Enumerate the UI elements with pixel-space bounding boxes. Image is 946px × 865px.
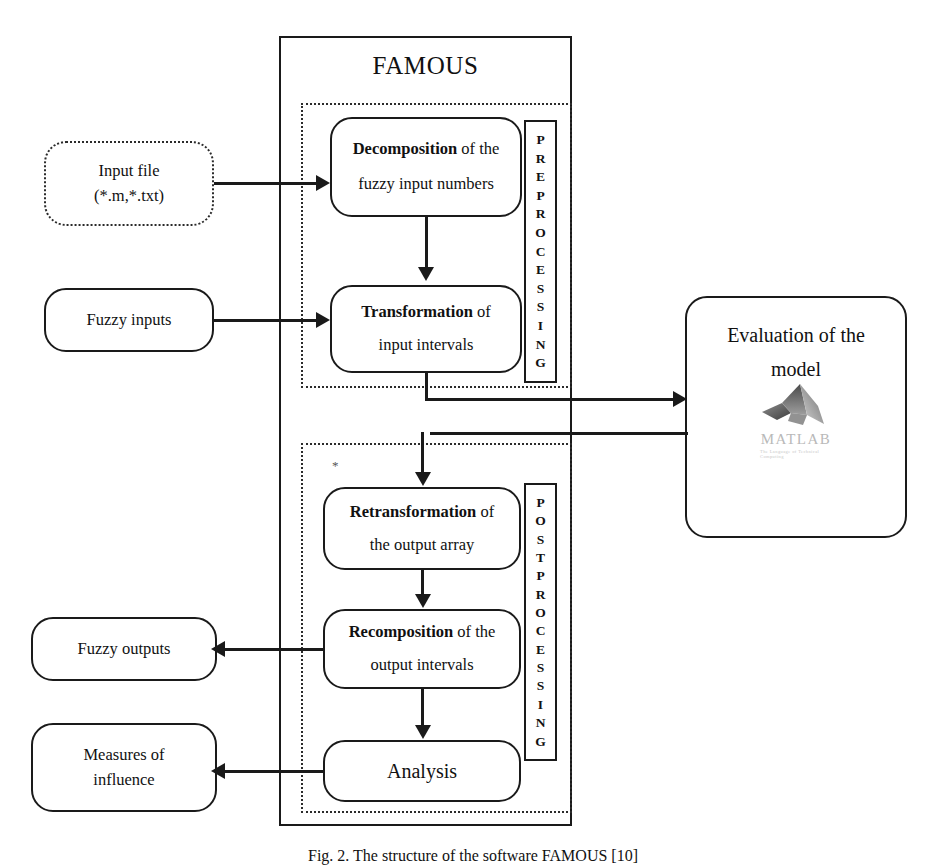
connector-transformation-down [425,373,428,400]
measures-line1: Measures of [83,743,164,768]
evaluation-line2: model [771,354,821,384]
preproc-letter: C [536,245,546,259]
preproc-letter: P [536,133,544,147]
connector-analysis-to-measures [223,770,323,773]
fuzzy-inputs-label: Fuzzy inputs [87,308,172,333]
preproc-letter: S [537,300,545,314]
arrowhead-fuzzyoutputs-in [211,641,225,657]
recomposition-rest: of the [453,622,495,641]
connector-recomposition-to-analysis [421,689,424,727]
fuzzy-outputs-box[interactable]: Fuzzy outputs [31,617,217,681]
figure-caption: Fig. 2. The structure of the software FA… [0,847,946,865]
postproc-letter: S [537,679,545,693]
decomposition-lead: Decomposition [353,139,458,158]
retransformation-box[interactable]: Retransformation of the output array [323,487,521,570]
arrowhead-retransformation-top [415,472,431,486]
postproc-letter: N [536,716,546,730]
connector-recomposition-to-fuzzyoutputs [223,648,323,651]
retransformation-line2: the output array [370,533,474,558]
connector-inputfile-to-decomposition [214,182,318,185]
postproc-letter: S [537,661,545,675]
input-file-box[interactable]: Input file (*.m,*.txt) [44,141,214,226]
connector-from-evaluation [430,432,688,435]
fuzzy-outputs-label: Fuzzy outputs [77,637,170,662]
postprocessing-band: P O S T P R O C E S S I N G [524,483,557,761]
matlab-wordmark: MATLAB [761,431,832,448]
postproc-letter: C [536,624,546,638]
transformation-line2: input intervals [379,333,474,358]
preproc-letter: E [536,170,545,184]
postproc-letter: P [536,496,544,510]
recomposition-line2: output intervals [370,653,473,678]
decomposition-rest: of the [457,139,499,158]
retransformation-lead: Retransformation [350,502,476,521]
arrowhead-measures-in [211,763,225,779]
transformation-rest: of [473,302,491,321]
matlab-logo: MATLAB The Language of Technical Computi… [760,382,832,459]
preproc-letter: P [536,189,544,203]
matlab-membrane-icon [760,382,832,430]
evaluation-line1: Evaluation of the [727,320,865,350]
input-file-line2: (*.m,*.txt) [94,184,164,209]
preproc-letter: E [536,263,545,277]
arrowhead-recomposition-top [415,594,431,608]
preproc-letter: G [535,356,546,370]
preproc-letter: N [536,338,546,352]
retransformation-line1: Retransformation of [350,500,494,525]
arrowhead-analysis-top [415,725,431,739]
retransformation-rest: of [476,502,494,521]
postproc-letter: T [536,551,545,565]
postproc-letter: G [535,735,546,749]
preproc-letter: S [537,282,545,296]
decomposition-line1: Decomposition of the [353,137,500,162]
connector-fuzzyinputs-to-transformation [214,319,318,322]
measures-of-influence-box[interactable]: Measures of influence [31,723,217,812]
arrowhead-evaluation-in [673,391,687,407]
analysis-box[interactable]: Analysis [323,740,521,802]
connector-to-evaluation [425,398,675,401]
postproc-letter: R [536,588,546,602]
arrowhead-transformation-top [418,267,434,281]
decomposition-line2: fuzzy input numbers [358,172,494,197]
preproc-letter: R [536,207,546,221]
transformation-box[interactable]: Transformation of input intervals [330,285,522,373]
postproc-letter: S [537,533,545,547]
arrowhead-decomposition-in [316,175,330,191]
postprocessing-marker: * [332,458,339,474]
input-file-line1: Input file [99,159,160,184]
preproc-letter: I [538,319,543,333]
preprocessing-band: P R E P R O C E S S I N G [524,120,557,383]
postproc-letter: O [535,514,546,528]
postproc-letter: O [535,606,546,620]
connector-retransformation-to-recomposition [421,570,424,596]
famous-title: FAMOUS [279,52,572,80]
arrowhead-transformation-in [316,312,330,328]
recomposition-line1: Recomposition of the [349,620,496,645]
preproc-letter: O [535,226,546,240]
postproc-letter: E [536,643,545,657]
matlab-tagline: The Language of Technical Computing [760,449,832,459]
preproc-letter: R [536,152,546,166]
recomposition-box[interactable]: Recomposition of the output intervals [323,609,521,689]
connector-decomposition-to-transformation [425,217,428,269]
transformation-lead: Transformation [361,302,473,321]
measures-line2: influence [93,768,154,793]
recomposition-lead: Recomposition [349,622,454,641]
fuzzy-inputs-box[interactable]: Fuzzy inputs [44,288,214,352]
analysis-label: Analysis [387,756,457,786]
transformation-line1: Transformation of [361,300,490,325]
decomposition-box[interactable]: Decomposition of the fuzzy input numbers [330,117,522,217]
postproc-letter: P [536,569,544,583]
postproc-letter: I [538,698,543,712]
